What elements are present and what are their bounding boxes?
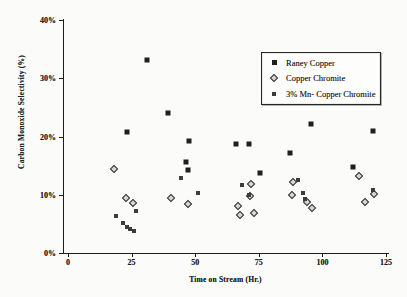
x-axis-tick-label: 100 — [316, 258, 328, 267]
y-axis-tick-label: 20% — [40, 132, 56, 141]
x-axis-tick-label: 25 — [128, 258, 136, 267]
data-point-mn-copper-chromite — [371, 188, 375, 192]
data-point-raney-copper — [187, 139, 192, 144]
x-axis-tick-label: 50 — [191, 258, 199, 267]
x-axis-tick-label: 125 — [380, 258, 392, 267]
data-point-raney-copper — [124, 130, 129, 135]
data-point-raney-copper — [247, 142, 252, 147]
legend-label-copper-chromite: Copper Chromite — [286, 73, 345, 83]
data-point-copper-chromite — [288, 191, 296, 199]
data-point-raney-copper — [166, 111, 171, 116]
data-point-raney-copper — [288, 151, 293, 156]
legend-box: Raney Copper Copper Chromite 3% Mn- Copp… — [261, 52, 381, 105]
x-axis-tick — [68, 253, 69, 257]
legend-item-copper-chromite: Copper Chromite — [262, 73, 380, 83]
data-point-mn-copper-chromite — [134, 209, 138, 213]
filled-gray-square-marker-icon — [272, 92, 276, 96]
y-axis-tick-label: 30% — [40, 74, 56, 83]
y-axis-tick — [59, 137, 63, 138]
data-point-raney-copper — [144, 57, 149, 62]
data-point-mn-copper-chromite — [114, 214, 118, 218]
data-point-raney-copper — [350, 165, 355, 170]
data-point-mn-copper-chromite — [303, 197, 307, 201]
y-axis-tick-label: 10% — [40, 190, 56, 199]
x-axis-tick — [386, 253, 387, 257]
data-point-copper-chromite — [236, 210, 244, 218]
y-axis-tick-label: 0% — [44, 249, 56, 258]
x-axis-tick-label: 75 — [255, 258, 263, 267]
y-axis-tick — [59, 195, 63, 196]
data-point-raney-copper — [308, 121, 313, 126]
legend-label-mn-copper-chromite: 3% Mn- Copper Chromite — [286, 89, 375, 99]
data-point-copper-chromite — [361, 197, 369, 205]
data-point-copper-chromite — [246, 180, 254, 188]
data-point-mn-copper-chromite — [132, 229, 136, 233]
data-point-mn-copper-chromite — [247, 193, 251, 197]
y-axis-tick — [59, 20, 63, 21]
data-point-copper-chromite — [234, 202, 242, 210]
data-point-raney-copper — [370, 129, 375, 134]
data-point-mn-copper-chromite — [179, 176, 183, 180]
x-axis-title: Time on Stream (Hr.) — [63, 275, 388, 284]
open-diamond-marker-icon — [270, 74, 278, 82]
data-point-mn-copper-chromite — [240, 183, 244, 187]
data-point-copper-chromite — [128, 199, 136, 207]
x-axis-tick-label: 0 — [66, 258, 70, 267]
x-axis-tick — [195, 253, 196, 257]
data-point-copper-chromite — [167, 193, 175, 201]
data-point-copper-chromite — [184, 200, 192, 208]
data-point-mn-copper-chromite — [196, 191, 200, 195]
scatter-chart-figure: Carbon Monoxide Selectivity (%) 02550751… — [0, 0, 407, 297]
data-point-copper-chromite — [110, 165, 118, 173]
legend-label-raney-copper: Raney Copper — [286, 58, 335, 68]
x-axis-tick — [322, 253, 323, 257]
legend-item-mn-copper-chromite: 3% Mn- Copper Chromite — [262, 89, 380, 99]
legend-item-raney-copper: Raney Copper — [262, 58, 380, 68]
y-axis-title: Carbon Monoxide Selectivity (%) — [17, 55, 26, 169]
data-point-copper-chromite — [250, 209, 258, 217]
data-point-copper-chromite — [308, 204, 316, 212]
data-point-raney-copper — [184, 160, 189, 165]
data-point-raney-copper — [233, 142, 238, 147]
data-point-copper-chromite — [355, 171, 363, 179]
x-axis-tick — [259, 253, 260, 257]
y-axis-tick-label: 40% — [40, 16, 56, 25]
data-point-mn-copper-chromite — [296, 178, 300, 182]
data-point-raney-copper — [185, 167, 190, 172]
data-point-raney-copper — [258, 171, 263, 176]
filled-square-marker-icon — [272, 60, 277, 65]
x-axis-tick — [132, 253, 133, 257]
data-point-mn-copper-chromite — [301, 191, 305, 195]
y-axis-tick — [59, 78, 63, 79]
y-axis-tick — [59, 253, 63, 254]
